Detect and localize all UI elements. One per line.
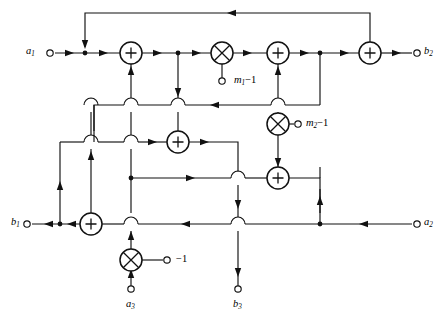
label-m1: m1−1 [234,75,256,86]
arrow-x60-up [57,181,63,190]
arrow-x238-down [235,200,241,209]
neg1-terminal[interactable] [164,257,170,263]
hop-91-105 [84,98,98,105]
hop-238-224 [231,217,245,224]
junction-dot [58,222,63,227]
hop-131-142 [124,135,138,142]
a2-terminal[interactable] [414,221,420,227]
label-b3: b3 [233,299,242,310]
m1-terminal[interactable] [219,78,225,84]
label-m2: m2−1 [306,118,328,129]
arrow-adder4-out [200,139,209,145]
junction-dot [318,222,323,227]
arrow-adder1-out [153,50,162,56]
arrow-x131-up-into-adder1 [128,66,134,75]
label-b2: b2 [424,46,433,57]
arrow-into-adder2-bottom [275,66,281,75]
hop-91-142 [84,135,98,142]
arrow-node178-down [175,88,181,97]
a1-terminal[interactable] [47,50,53,56]
junction-dot [176,51,181,56]
hop-131-105 [124,98,138,105]
wire-adder5-out [289,178,320,213]
label-a1: a1 [26,46,35,57]
operator-layer [80,42,381,271]
arrow-b1-left-2 [67,221,76,227]
m2-terminal[interactable] [295,121,301,127]
signal-flow-diagram: a1 b2 m1−1 m2−1 b1 a2 −1 a3 b3 [0,0,445,321]
arrow-top-feedback-down [82,40,88,49]
arrow-b1-left [44,221,53,227]
arrow-mult1-in [192,50,201,56]
arrow-x91-up [88,151,94,160]
terminal-layer [24,50,420,292]
arrow-row224-left-1 [181,221,190,227]
multiplier-m1[interactable] [211,42,233,64]
label-a2: a2 [424,217,433,228]
arrow-adder2-in [243,50,252,56]
arrow-adder2-out [300,50,309,56]
arrow-row178-right [186,175,195,181]
b3-terminal[interactable] [235,286,241,292]
arrow-top-feedback [227,10,236,16]
b1-terminal[interactable] [24,221,30,227]
adder-2[interactable] [267,42,289,64]
flow-graph-canvas [0,0,445,321]
arrow-neg1-up [128,231,134,240]
arrow-b2-out [392,50,401,56]
hop-178-105 [171,98,185,105]
a3-terminal[interactable] [128,286,134,292]
arrow-m2-down [275,158,281,167]
arrow-b3-down [235,268,241,277]
arrow-into-adder4 [148,139,157,145]
arrow-a1-in [65,50,74,56]
junction-dot [318,51,323,56]
label-neg1: −1 [176,254,187,265]
adder-4[interactable] [167,131,189,153]
junction-dot [83,51,88,56]
arrow-adder3-in [340,50,349,56]
junction-dot [129,176,134,181]
arrow-adder1-in [99,50,108,56]
multiplier-neg1[interactable] [120,249,142,271]
arrow-x320-up [317,196,323,205]
adder-3[interactable] [359,42,381,64]
multiplier-m2[interactable] [267,113,289,135]
adder-5[interactable] [267,167,289,189]
hop-238-178 [231,171,245,178]
wire-mid-seg-4 [94,105,124,115]
label-b1: b1 [11,217,20,228]
wire-adder4-out [189,142,238,171]
arrow-a2-in [359,221,368,227]
arrow-mid-left [210,102,219,108]
label-a3: a3 [126,299,135,310]
hop-131-224 [124,217,138,224]
b2-terminal[interactable] [414,50,420,56]
adder-1[interactable] [120,42,142,64]
hop-278-105 [271,98,285,105]
adder-6[interactable] [80,213,102,235]
